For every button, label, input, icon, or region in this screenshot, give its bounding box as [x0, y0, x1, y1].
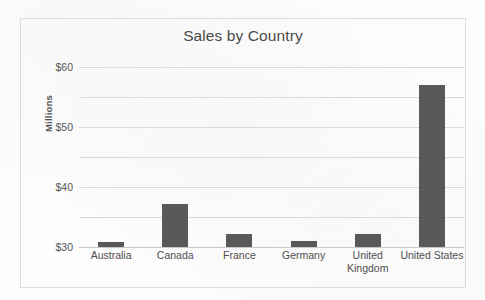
bar-germany[interactable] — [291, 241, 317, 247]
x-tick-label-line: France — [207, 249, 271, 262]
bar-france[interactable] — [226, 234, 252, 248]
chart-frame: Sales by Country Millions $0$10$20$30$40… — [20, 18, 466, 288]
x-tick-label-australia: Australia — [79, 249, 143, 262]
x-tick-label-line: United — [336, 249, 400, 262]
bar-united-kingdom[interactable] — [355, 234, 381, 247]
page-background: Sales by Country Millions $0$10$20$30$40… — [0, 0, 485, 300]
x-tick-label-germany: Germany — [272, 249, 336, 262]
bar-slot — [207, 67, 271, 247]
y-tick-label: $40 — [39, 181, 73, 193]
x-tick-label-line: Germany — [272, 249, 336, 262]
x-tick-label-line: Kingdom — [336, 262, 400, 275]
x-axis-labels: AustraliaCanadaFranceGermanyUnitedKingdo… — [79, 249, 464, 289]
y-axis-title: Millions — [43, 79, 57, 149]
chart-title: Sales by Country — [21, 27, 465, 45]
x-tick-label-united-states: United States — [400, 249, 464, 262]
gridline: $0 — [79, 247, 464, 248]
bar-slot — [143, 67, 207, 247]
bar-slot — [336, 67, 400, 247]
bar-slot — [400, 67, 464, 247]
x-tick-label-line: Canada — [143, 249, 207, 262]
bar-canada[interactable] — [162, 204, 188, 247]
y-tick-label: $30 — [39, 241, 73, 253]
plot-area: $0$10$20$30$40$50$60 — [79, 67, 464, 247]
y-tick-label: $50 — [39, 121, 73, 133]
bar-united-states[interactable] — [419, 85, 445, 247]
bar-slot — [272, 67, 336, 247]
y-tick-label: $60 — [39, 61, 73, 73]
x-tick-label-united-kingdom: UnitedKingdom — [336, 249, 400, 275]
x-tick-label-line: Australia — [79, 249, 143, 262]
bar-slot — [79, 67, 143, 247]
bar-series — [79, 67, 464, 247]
bar-australia[interactable] — [98, 242, 124, 247]
x-tick-label-line: United States — [400, 249, 464, 262]
x-tick-label-france: France — [207, 249, 271, 262]
x-tick-label-canada: Canada — [143, 249, 207, 262]
